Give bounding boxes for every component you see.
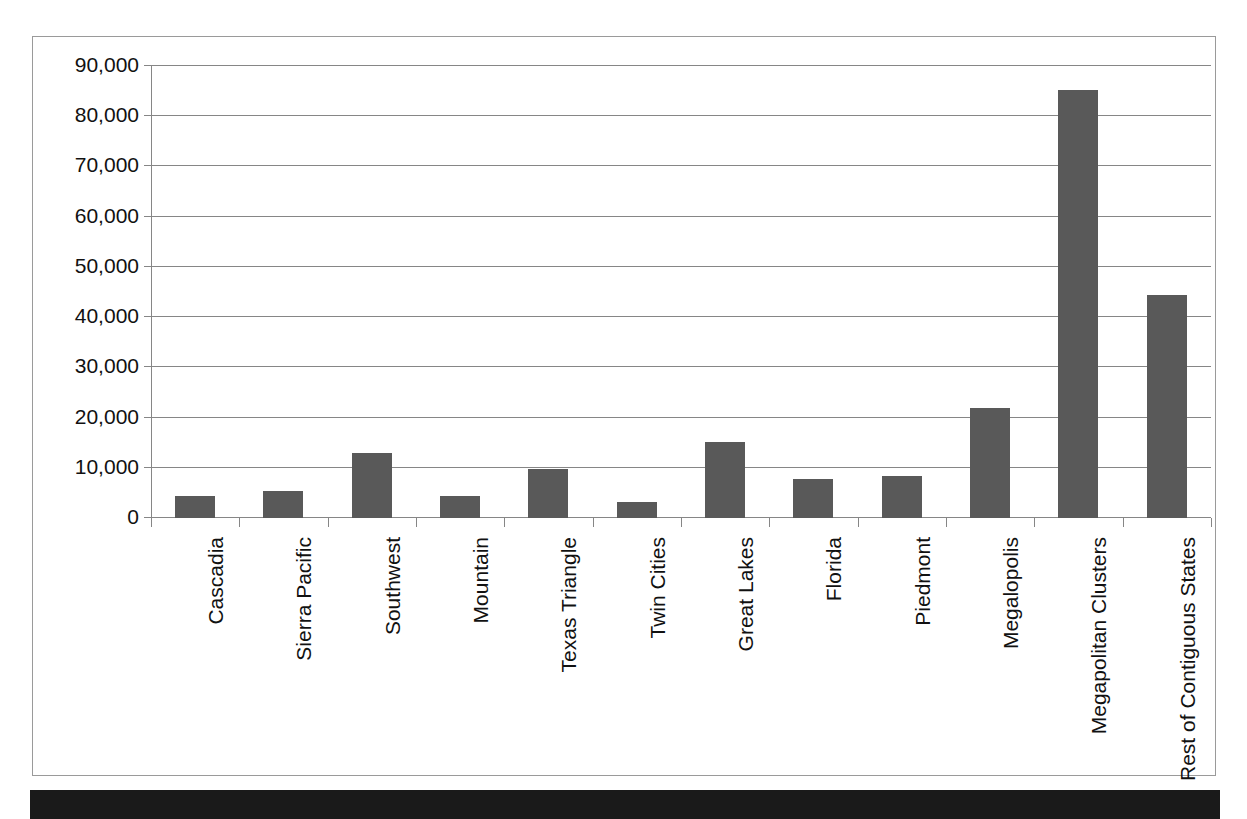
bar-slot bbox=[593, 65, 681, 518]
x-axis-labels: CascadiaSierra PacificSouthwestMountainT… bbox=[151, 529, 1211, 779]
bar[interactable] bbox=[352, 453, 392, 518]
bar[interactable] bbox=[440, 496, 480, 518]
y-axis-tick bbox=[144, 417, 152, 418]
bar-slot bbox=[681, 65, 769, 518]
x-axis-label-slot: Mountain bbox=[416, 529, 504, 779]
x-axis-label-slot: Piedmont bbox=[858, 529, 946, 779]
y-axis-tick bbox=[144, 165, 152, 166]
x-axis-tick bbox=[416, 518, 417, 527]
bar-slot bbox=[769, 65, 857, 518]
bar[interactable] bbox=[528, 469, 568, 518]
x-axis-tick bbox=[593, 518, 594, 527]
y-axis-tick-label: 0 bbox=[39, 506, 139, 527]
x-axis-tick bbox=[328, 518, 329, 527]
x-axis-tick bbox=[1211, 518, 1212, 527]
x-axis-category-label: Cascadia bbox=[205, 537, 226, 625]
bar-slot bbox=[946, 65, 1034, 518]
x-axis-tick bbox=[239, 518, 240, 527]
x-axis-label-slot: Megapolitan Clusters bbox=[1034, 529, 1122, 779]
bars-layer bbox=[151, 65, 1211, 518]
bar[interactable] bbox=[1058, 90, 1098, 518]
x-axis-tick bbox=[1123, 518, 1124, 527]
y-axis-tick-label: 60,000 bbox=[39, 205, 139, 226]
bar[interactable] bbox=[882, 476, 922, 518]
x-axis-label-slot: Rest of Contiguous States bbox=[1123, 529, 1211, 779]
x-axis-label-slot: Megalopolis bbox=[946, 529, 1034, 779]
x-axis-category-label: Rest of Contiguous States bbox=[1177, 537, 1198, 781]
x-axis-category-label: Southwest bbox=[382, 537, 403, 635]
x-axis-tick bbox=[946, 518, 947, 527]
bar-slot bbox=[239, 65, 327, 518]
y-axis-tick-label: 50,000 bbox=[39, 255, 139, 276]
x-axis-label-slot: Great Lakes bbox=[681, 529, 769, 779]
y-axis-tick-label: 80,000 bbox=[39, 104, 139, 125]
x-axis-label-slot: Florida bbox=[769, 529, 857, 779]
bar[interactable] bbox=[263, 491, 303, 518]
y-axis-tick bbox=[144, 467, 152, 468]
x-axis-category-label: Megapolitan Clusters bbox=[1088, 537, 1109, 734]
x-axis-tick bbox=[858, 518, 859, 527]
x-axis-category-label: Megalopolis bbox=[1000, 537, 1021, 649]
y-axis-tick bbox=[144, 115, 152, 116]
y-axis-tick-label: 40,000 bbox=[39, 305, 139, 326]
y-axis-tick-label: 20,000 bbox=[39, 406, 139, 427]
y-axis-tick bbox=[144, 266, 152, 267]
y-axis-tick-label: 90,000 bbox=[39, 54, 139, 75]
footer-band bbox=[30, 790, 1220, 819]
x-axis-category-label: Florida bbox=[823, 537, 844, 601]
y-axis-tick-label: 30,000 bbox=[39, 355, 139, 376]
bar-slot bbox=[151, 65, 239, 518]
x-axis-label-slot: Twin Cities bbox=[593, 529, 681, 779]
x-axis-tick bbox=[504, 518, 505, 527]
bar[interactable] bbox=[617, 502, 657, 518]
bar-slot bbox=[328, 65, 416, 518]
y-axis-labels: 90,00080,00070,00060,00050,00040,00030,0… bbox=[33, 37, 139, 557]
y-axis-tick-label: 10,000 bbox=[39, 456, 139, 477]
bar-slot bbox=[858, 65, 946, 518]
chart-frame: 90,00080,00070,00060,00050,00040,00030,0… bbox=[32, 36, 1216, 776]
x-axis-label-slot: Sierra Pacific bbox=[239, 529, 327, 779]
y-axis-tick-label: 70,000 bbox=[39, 154, 139, 175]
bar-slot bbox=[416, 65, 504, 518]
bar-slot bbox=[1034, 65, 1122, 518]
x-axis-label-slot: Texas Triangle bbox=[504, 529, 592, 779]
bar[interactable] bbox=[175, 496, 215, 518]
bar[interactable] bbox=[793, 479, 833, 518]
y-axis-tick bbox=[144, 366, 152, 367]
x-axis-tick bbox=[151, 518, 152, 527]
x-axis-category-label: Great Lakes bbox=[735, 537, 756, 651]
bar[interactable] bbox=[705, 442, 745, 518]
x-axis-category-label: Mountain bbox=[470, 537, 491, 623]
bar[interactable] bbox=[1147, 295, 1187, 518]
x-axis-category-label: Piedmont bbox=[912, 537, 933, 626]
y-axis-tick bbox=[144, 316, 152, 317]
x-axis-tick bbox=[769, 518, 770, 527]
x-axis-tick bbox=[1034, 518, 1035, 527]
x-axis-category-label: Sierra Pacific bbox=[293, 537, 314, 661]
x-axis-label-slot: Southwest bbox=[328, 529, 416, 779]
bar[interactable] bbox=[970, 408, 1010, 518]
x-axis-category-label: Twin Cities bbox=[647, 537, 668, 639]
y-axis-tick bbox=[144, 65, 152, 66]
bar-slot bbox=[504, 65, 592, 518]
bar-slot bbox=[1123, 65, 1211, 518]
x-axis-tick bbox=[681, 518, 682, 527]
x-axis-category-label: Texas Triangle bbox=[558, 537, 579, 672]
x-axis-label-slot: Cascadia bbox=[151, 529, 239, 779]
y-axis-tick bbox=[144, 216, 152, 217]
